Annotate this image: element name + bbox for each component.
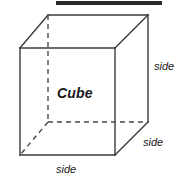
cube-label: Cube: [57, 85, 93, 101]
side-label-lower-right: side: [143, 136, 163, 148]
side-label-right: side: [154, 60, 174, 72]
side-label-bottom: side: [56, 163, 76, 175]
edge-top-left-diagonal: [20, 15, 48, 48]
hidden-edge-bottom-left-diagonal: [20, 122, 48, 155]
edge-top-right-diagonal: [115, 15, 148, 48]
cube-diagram: Cube side side side: [0, 0, 185, 181]
